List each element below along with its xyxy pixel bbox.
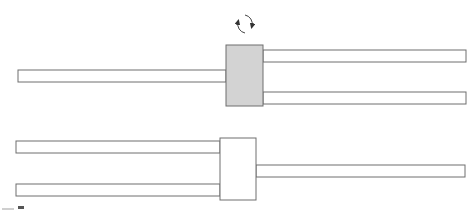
corner-mark (2, 206, 24, 210)
bottom-left-bar-lower (16, 184, 220, 196)
static-block (220, 138, 256, 200)
top-right-bar-lower (263, 92, 466, 104)
rotating-block (226, 45, 263, 106)
top-assembly (18, 45, 466, 106)
top-left-bar (18, 70, 226, 82)
bottom-assembly (16, 138, 465, 200)
circular-arrows-icon (238, 15, 253, 33)
bottom-left-bar-upper (16, 141, 220, 153)
diagram-canvas (0, 0, 473, 213)
bottom-right-bar (256, 165, 465, 177)
top-right-bar-upper (263, 50, 466, 62)
